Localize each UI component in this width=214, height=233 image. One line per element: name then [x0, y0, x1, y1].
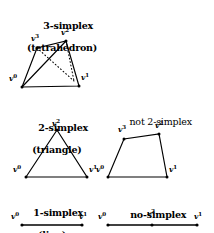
- caption-one-simplex-line2: (line): [2, 229, 102, 233]
- label-tri-v2: v2: [52, 120, 60, 128]
- label-col-v1: v1: [194, 213, 202, 221]
- label-quad-v1: v1: [169, 166, 177, 174]
- quadrilateral-vertex-v1: [166, 176, 169, 179]
- label-seg-v0: v0: [11, 213, 19, 221]
- label-seg-v1: v1: [79, 213, 87, 221]
- label-tetra-v2: v2: [61, 29, 69, 37]
- label-col-v2: v2: [147, 210, 155, 218]
- caption-one-simplex-line1: 1-simplex: [33, 207, 83, 218]
- label-tetra-v3: v3: [31, 35, 39, 43]
- tetrahedron-vertex-v0: [21, 86, 24, 89]
- label-tetra-v1: v1: [81, 74, 89, 82]
- simplex-figure: 3-simplex (tetrahedron) 2-simplex (trian…: [0, 0, 214, 233]
- label-tetra-v0-index: 0: [13, 73, 17, 79]
- label-col-v2-index: 2: [151, 208, 155, 214]
- label-quad-v2-index: 2: [159, 120, 163, 126]
- caption-no-simplex-line1: no-simplex: [130, 209, 186, 220]
- label-quad-v3: v3: [118, 126, 126, 134]
- label-col-v0-index: 0: [102, 211, 106, 217]
- label-tri-v2-index: 2: [56, 118, 60, 124]
- caption-two-simplex-line2: (triangle): [7, 144, 107, 155]
- label-quad-v1-index: 1: [173, 164, 177, 170]
- caption-three-simplex-line2: (tetrahedron): [12, 42, 112, 53]
- label-quad-v2: v2: [155, 122, 163, 130]
- label-tetra-v0: v0: [9, 75, 17, 83]
- caption-three-simplex: 3-simplex (tetrahedron): [12, 9, 112, 75]
- label-tetra-v1-index: 1: [85, 72, 89, 78]
- label-quad-v0-index: 0: [100, 164, 104, 170]
- label-quad-v3-index: 3: [122, 124, 126, 130]
- quadrilateral-outline: [108, 134, 167, 177]
- caption-two-simplex-line1: 2-simplex: [38, 122, 88, 133]
- quadrilateral-group: [107, 133, 169, 179]
- label-col-v0: v0: [98, 213, 106, 221]
- label-col-v1-index: 1: [198, 211, 202, 217]
- label-tri-v0: v0: [13, 166, 21, 174]
- label-tetra-v3-index: 3: [35, 33, 39, 39]
- label-seg-v1-index: 1: [83, 211, 87, 217]
- tetrahedron-vertex-v1: [78, 85, 81, 88]
- label-quad-v0: v0: [96, 166, 104, 174]
- label-tri-v0-index: 0: [17, 164, 21, 170]
- label-tetra-v2-index: 2: [65, 27, 69, 33]
- label-seg-v0-index: 0: [15, 211, 19, 217]
